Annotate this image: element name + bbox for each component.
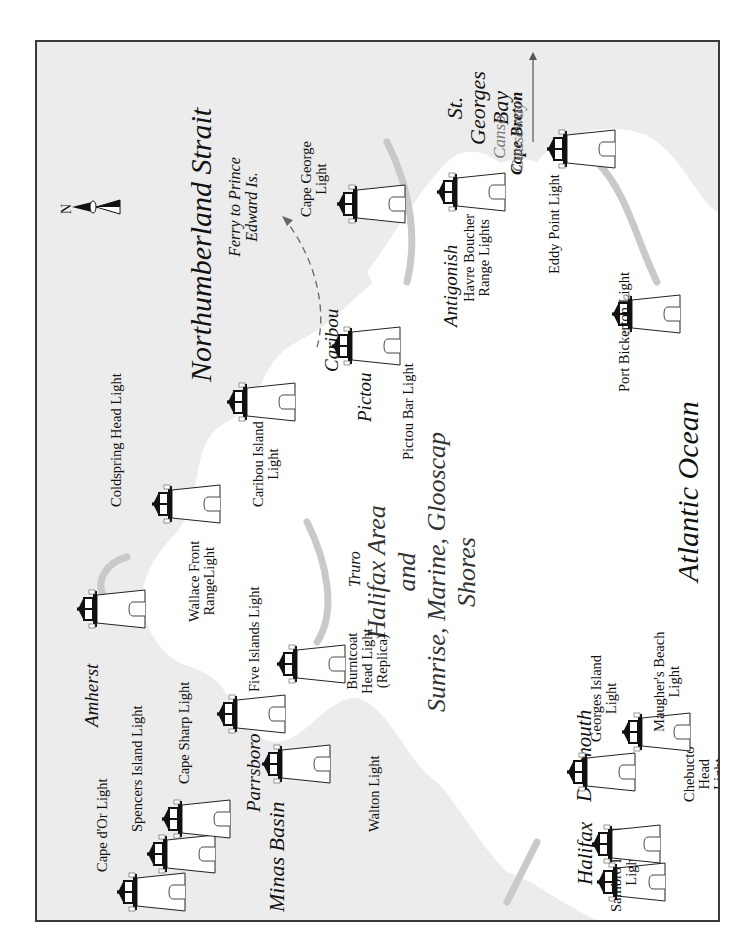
lighthouse-icon-pictou-bar[interactable] xyxy=(332,324,402,368)
lighthouse-icon-havre-boucher[interactable] xyxy=(437,170,507,214)
lighthouse-icon-burntcoat[interactable] xyxy=(277,642,347,686)
label-chebucto: Chebucto Head Light xyxy=(682,746,720,802)
label-maughers: Maugher's Beach Light xyxy=(652,632,682,732)
lighthouse-icon-eddy-point[interactable] xyxy=(547,127,617,171)
label-georges-island: Georges Island Light xyxy=(589,655,619,742)
lighthouse-icon-georges-island[interactable] xyxy=(567,750,637,794)
ferry-label: Ferry to Prince Edward Is. xyxy=(227,137,261,277)
lighthouse-icon-wallace[interactable] xyxy=(152,482,222,526)
title-line-4: Shores xyxy=(452,412,482,732)
label-five-islands: Five Islands Light xyxy=(247,586,262,692)
place-parrsboro: Parrsboro xyxy=(244,734,264,812)
lighthouse-icon-chebucto[interactable] xyxy=(592,822,662,866)
label-walton: Walton Light xyxy=(367,755,382,832)
map-frame: N Northumberland Strait Atlantic Ocean S… xyxy=(35,40,720,922)
place-pictou: Pictou xyxy=(355,372,375,422)
label-caribou-island: Caribou Island Light xyxy=(251,421,281,507)
place-antigonish: Antigonish xyxy=(441,245,461,327)
title-line-3: Sunrise, Marine, Glooscap xyxy=(422,412,452,732)
water-label-atlantic: Atlantic Ocean xyxy=(672,401,704,582)
lighthouse-icon-cape-sharp[interactable] xyxy=(162,797,232,841)
lighthouse-icon-cape-dor[interactable] xyxy=(117,870,187,914)
label-pictou-bar: Pictou Bar Light xyxy=(401,363,416,460)
label-cape-dor: Cape d'Or Light xyxy=(95,778,110,872)
compass-north-label: N xyxy=(60,204,75,214)
lighthouse-icon-five-islands[interactable] xyxy=(217,692,287,736)
label-spencers: Spencers Island Light xyxy=(130,706,145,832)
compass-rose: N xyxy=(62,192,122,222)
place-amherst: Amherst xyxy=(82,664,102,727)
ferry-arrow-icon xyxy=(282,216,293,226)
place-truro: Truro xyxy=(347,551,364,587)
lighthouse-icon-coldspring[interactable] xyxy=(77,587,147,631)
label-eddy-point: Eddy Point Light xyxy=(547,174,562,274)
label-cape-sharp: Cape Sharp Light xyxy=(177,682,192,784)
title-line-2: and xyxy=(392,412,422,732)
lighthouse-icon-walton[interactable] xyxy=(262,742,332,786)
label-havre-boucher: Havre Boucher Range Lights xyxy=(462,214,492,302)
lighthouse-icon-caribou-island[interactable] xyxy=(227,380,297,424)
lighthouse-icon-cape-george[interactable] xyxy=(337,182,407,226)
label-wallace: Wallace Front RangeLight xyxy=(187,541,217,622)
water-label-northumberland: Northumberland Strait xyxy=(185,108,217,382)
label-coldspring: Coldspring Head Light xyxy=(109,373,124,507)
label-port-bickerton: Port Bickerton Light xyxy=(617,272,632,392)
cape-breton-arrow-icon xyxy=(527,52,539,142)
label-burntcoat: Burntcoat Head Light (Replica) xyxy=(345,628,391,694)
label-cape-george: Cape George Light xyxy=(299,141,329,217)
water-label-minas: Minas Basin xyxy=(265,801,288,912)
